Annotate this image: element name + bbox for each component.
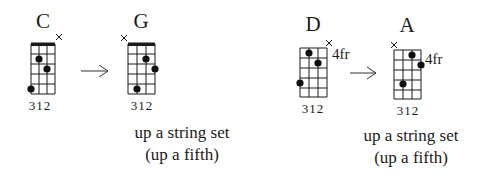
fingering-g: 312	[122, 99, 162, 112]
mute-x-icon	[121, 35, 127, 41]
caption-left: up a string set (up a fifth)	[102, 122, 262, 166]
fingering-c: 312	[20, 99, 60, 112]
nut	[31, 43, 55, 47]
mute-x-icon	[391, 42, 397, 48]
right-arrow-icon	[350, 67, 376, 79]
caption-line1: up a string set	[102, 122, 262, 144]
caption-line2: (up a fifth)	[331, 147, 481, 169]
fingering-a: 312	[388, 104, 428, 117]
chord-grid-g	[121, 35, 155, 94]
caption-right: up a string set (up a fifth)	[331, 125, 481, 169]
fret-label-d: 4fr	[332, 47, 350, 62]
right-arrow-icon	[81, 65, 108, 77]
mute-x-icon	[56, 34, 62, 40]
caption-line2: (up a fifth)	[102, 144, 262, 166]
fingering-d: 312	[293, 102, 333, 115]
fret-label-a: 4fr	[425, 52, 443, 67]
chord-grid-d	[300, 40, 332, 97]
caption-line1: up a string set	[331, 125, 481, 147]
chord-grid-a	[391, 42, 421, 99]
chord-grid-c	[31, 34, 62, 94]
nut	[128, 43, 155, 47]
